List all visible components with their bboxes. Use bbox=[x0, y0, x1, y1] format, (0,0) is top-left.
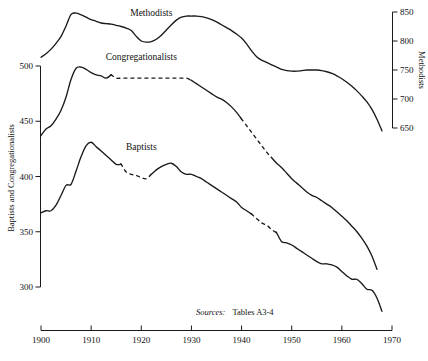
x-axis-tick-label: 1900 bbox=[32, 335, 51, 345]
right-axis-tick-label: 800 bbox=[400, 36, 414, 46]
x-axis-tick-label: 1960 bbox=[333, 335, 352, 345]
left-axis-tick-label: 450 bbox=[20, 116, 34, 126]
series-line-baptists bbox=[251, 214, 276, 233]
source-note-body: Tables A3-4 bbox=[232, 307, 274, 317]
series-line-baptists bbox=[151, 163, 252, 214]
x-axis-tick-label: 1950 bbox=[283, 335, 302, 345]
y2-axis-title: Methodists bbox=[417, 51, 427, 89]
series-line-congregationalists bbox=[111, 75, 192, 81]
historical-membership-line-chart: 300350400450500 650700750800850 19001910… bbox=[0, 0, 428, 361]
source-note-prefix: Sources: bbox=[196, 307, 226, 317]
left-y-axis: 300350400450500 bbox=[20, 61, 41, 292]
series-line-congregationalists bbox=[41, 67, 111, 136]
x-axis-tick-label: 1930 bbox=[182, 335, 201, 345]
x-axis-tick-label: 1970 bbox=[383, 335, 402, 345]
left-axis-tick-label: 300 bbox=[20, 282, 34, 292]
series-line-congregationalists bbox=[271, 157, 377, 269]
series-line-methodists bbox=[41, 13, 382, 131]
series-line-baptists bbox=[41, 142, 121, 213]
series-line-congregationalists bbox=[191, 80, 242, 119]
right-axis-tick-label: 750 bbox=[400, 65, 414, 75]
x-axis-tick-label: 1910 bbox=[82, 335, 101, 345]
chart-figure: 300350400450500 650700750800850 19001910… bbox=[0, 0, 428, 361]
source-note: Sources: Tables A3-4 bbox=[196, 307, 274, 317]
series-label-baptists: Baptists bbox=[126, 142, 157, 152]
right-y-axis: 650700750800850 bbox=[393, 7, 415, 133]
right-axis-tick-label: 850 bbox=[400, 7, 414, 17]
series-layer bbox=[41, 13, 382, 311]
left-axis-tick-label: 350 bbox=[20, 227, 34, 237]
right-axis-tick-label: 700 bbox=[400, 94, 414, 104]
left-axis-tick-label: 500 bbox=[20, 61, 34, 71]
x-axis: 19001910192019301940195019601970 bbox=[32, 326, 402, 346]
right-axis-tick-label: 650 bbox=[400, 123, 414, 133]
series-line-congregationalists bbox=[241, 119, 271, 158]
y-axis-title: Baptists and Congregationalists bbox=[6, 124, 16, 232]
x-axis-tick-label: 1940 bbox=[233, 335, 252, 345]
series-line-baptists bbox=[121, 164, 151, 179]
series-label-congregationalists: Congregationalists bbox=[106, 52, 178, 62]
series-label-methodists: Methodists bbox=[130, 8, 173, 18]
x-axis-tick-label: 1920 bbox=[132, 335, 151, 345]
left-axis-tick-label: 400 bbox=[20, 172, 34, 182]
